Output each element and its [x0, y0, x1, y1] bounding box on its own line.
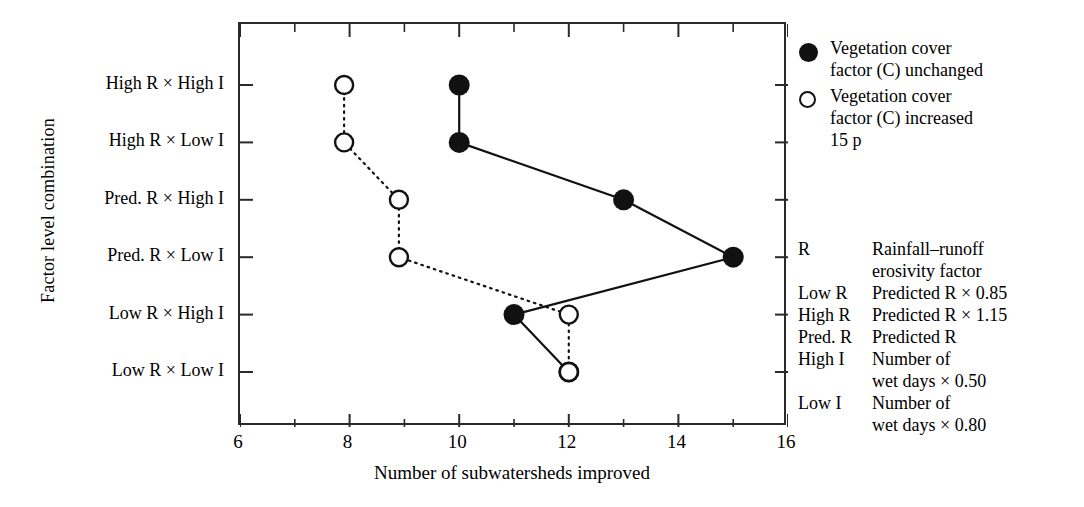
series-line-1 [344, 85, 569, 372]
x-tick-label: 8 [343, 431, 353, 453]
data-point-filled [504, 304, 525, 325]
glossary-row: Low INumber of [798, 393, 1084, 415]
glossary-row: Pred. RPredicted R [798, 327, 1084, 349]
glossary-value-continued: wet days × 0.50 [872, 371, 1084, 393]
glossary-row: High RPredicted R × 1.15 [798, 305, 1084, 327]
x-tick-label: 16 [777, 431, 796, 453]
x-tick-label: 14 [667, 431, 686, 453]
y-tick-label: High R × High I [0, 73, 232, 94]
glossary-row: RRainfall–runoff [798, 239, 1084, 261]
data-point-filled [723, 247, 744, 268]
data-point-open [390, 191, 408, 209]
glossary-value: Number of [872, 393, 1084, 415]
glossary-value: Predicted R [872, 327, 1084, 349]
glossary-block: RRainfall–runofferosivity factorLow RPre… [798, 239, 1084, 437]
glossary-key: Pred. R [798, 327, 872, 349]
data-point-filled [613, 189, 634, 210]
chart-figure: Factor level combination High R × High I… [0, 0, 1084, 507]
data-point-open [335, 76, 353, 94]
legend-item: Vegetation coverfactor (C) increased15 p [796, 86, 1084, 152]
data-point-open [560, 306, 578, 324]
x-tick-label: 12 [557, 431, 576, 453]
legend-label-line: Vegetation cover [830, 86, 973, 108]
legend: Vegetation coverfactor (C) unchangedVege… [796, 38, 1084, 156]
glossary-key: Low R [798, 283, 872, 305]
data-point-open [560, 363, 578, 381]
glossary-value-continued: wet days × 0.80 [872, 415, 1084, 437]
data-point-open [335, 133, 353, 151]
glossary-row: High INumber of [798, 349, 1084, 371]
legend-label: Vegetation coverfactor (C) unchanged [830, 38, 983, 82]
y-tick-label: Pred. R × High I [0, 187, 232, 208]
legend-item: Vegetation coverfactor (C) unchanged [796, 38, 1084, 82]
y-tick-label: Pred. R × Low I [0, 245, 232, 266]
open-circle-icon [799, 91, 816, 108]
y-tick-label: High R × Low I [0, 130, 232, 151]
legend-marker [796, 86, 830, 108]
glossary-value: Number of [872, 349, 1084, 371]
legend-label-line: factor (C) increased [830, 108, 973, 130]
data-point-open [390, 248, 408, 266]
glossary-key: R [798, 239, 872, 261]
plot-canvas [240, 24, 788, 427]
legend-label-line: 15 p [830, 130, 973, 152]
glossary-key: High I [798, 349, 872, 371]
data-point-filled [449, 132, 470, 153]
plot-area [238, 22, 786, 425]
legend-label-line: factor (C) unchanged [830, 60, 983, 82]
x-tick-label: 10 [448, 431, 467, 453]
glossary-key: High R [798, 305, 872, 327]
glossary-value: Predicted R × 0.85 [872, 283, 1084, 305]
glossary-value: Rainfall–runoff [872, 239, 1084, 261]
series-line-0 [459, 85, 733, 372]
data-point-filled [449, 75, 470, 96]
legend-label: Vegetation coverfactor (C) increased15 p [830, 86, 973, 152]
filled-circle-icon [799, 43, 818, 62]
y-tick-label: Low R × High I [0, 302, 232, 323]
y-tick-label: Low R × Low I [0, 360, 232, 381]
x-tick-label: 6 [233, 431, 243, 453]
glossary-value-continued: erosivity factor [872, 261, 1084, 283]
glossary-value: Predicted R × 1.15 [872, 305, 1084, 327]
legend-label-line: Vegetation cover [830, 38, 983, 60]
x-axis-title: Number of subwatersheds improved [238, 462, 786, 484]
glossary-key: Low I [798, 393, 872, 415]
glossary-row: Low RPredicted R × 0.85 [798, 283, 1084, 305]
legend-marker [796, 38, 830, 62]
